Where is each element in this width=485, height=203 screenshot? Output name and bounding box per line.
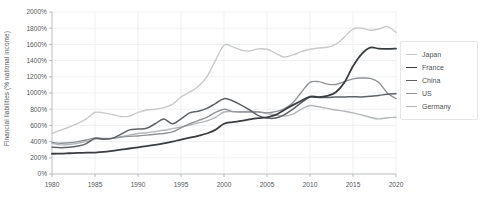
y-tick-label: 0%: [37, 170, 47, 177]
legend-item-france[interactable]: France: [406, 61, 471, 74]
legend-swatch-germany-icon: [406, 106, 417, 107]
y-tick-label: 2000%: [26, 8, 47, 15]
legend-item-china[interactable]: China: [406, 74, 471, 87]
legend-item-us[interactable]: US: [406, 87, 471, 100]
x-tick-label: 1985: [88, 181, 103, 188]
y-tick-label: 800%: [30, 106, 47, 113]
chart-legend: JapanFranceChinaUSGermany: [400, 41, 478, 120]
x-tick-label: 1995: [174, 181, 189, 188]
legend-swatch-japan-icon: [406, 54, 417, 55]
legend-label: Germany: [422, 103, 451, 110]
financial-liabilities-line-chart: Financial liabilities (% national income…: [0, 0, 485, 203]
y-tick-label: 1400%: [26, 57, 47, 64]
legend-item-germany[interactable]: Germany: [406, 100, 471, 113]
x-axis-ticks: 198019851990199520002005201020152020: [45, 174, 404, 188]
y-tick-label: 600%: [30, 122, 47, 129]
x-tick-label: 2005: [260, 181, 275, 188]
legend-label: Japan: [422, 51, 441, 58]
y-tick-label: 1200%: [26, 73, 47, 80]
x-tick-label: 1980: [45, 181, 60, 188]
y-tick-label: 400%: [30, 138, 47, 145]
legend-swatch-china-icon: [406, 80, 417, 81]
y-tick-label: 200%: [30, 154, 47, 161]
legend-label: France: [422, 64, 444, 71]
y-axis-ticks: 0%200%400%600%800%1000%1200%1400%1600%18…: [26, 8, 52, 177]
x-tick-label: 2000: [217, 181, 232, 188]
legend-swatch-us-icon: [406, 93, 417, 94]
x-tick-label: 2020: [389, 181, 404, 188]
legend-swatch-france-icon: [406, 67, 417, 68]
x-tick-label: 1990: [131, 181, 146, 188]
y-tick-label: 1600%: [26, 41, 47, 48]
legend-label: China: [422, 77, 440, 84]
y-tick-label: 1800%: [26, 25, 47, 32]
x-tick-label: 2015: [346, 181, 361, 188]
legend-label: US: [422, 90, 432, 97]
legend-item-japan[interactable]: Japan: [406, 48, 471, 61]
x-tick-label: 2010: [303, 181, 318, 188]
y-tick-label: 1000%: [26, 89, 47, 96]
